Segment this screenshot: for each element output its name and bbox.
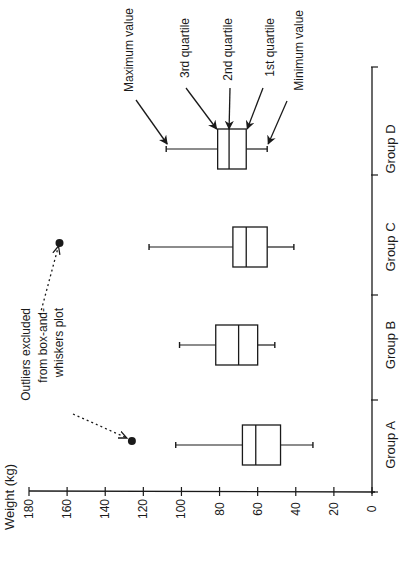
arrow-outlier-group-c [40, 246, 58, 315]
arrow-2nd-quartile [229, 88, 230, 129]
value-axis-line [29, 491, 375, 492]
value-axis-tick-label: 140 [98, 499, 112, 519]
value-axis-tick-label: 100 [174, 499, 188, 519]
box-series [55, 129, 312, 465]
value-axis-title: Weight (kg) [2, 464, 17, 530]
annotation-outliers-line: whiskers plot [52, 307, 66, 378]
interquartile-box [233, 227, 267, 267]
annotations: Maximum value3rd quartile2nd quartile1st… [19, 8, 306, 438]
category-label: Group B [383, 321, 398, 369]
annotation-maximum-value: Maximum value [122, 8, 136, 92]
axes: 020406080100120140160180Weight (kg)Group… [2, 67, 398, 530]
annotation-outliers-line: Outliers excluded [19, 308, 33, 401]
category-label: Group C [383, 222, 398, 271]
outlier-point [128, 437, 136, 445]
annotation-minimum-value: Minimum value [292, 10, 306, 91]
value-axis-tick-label: 80 [213, 502, 227, 516]
annotation-3rd-quartile: 3rd quartile [178, 18, 192, 78]
box-group-b [180, 325, 275, 365]
value-axis-tick-label: 20 [327, 502, 341, 516]
category-label: Group A [383, 421, 398, 469]
interquartile-box [216, 325, 258, 365]
arrow-1st-quartile [247, 88, 263, 129]
value-axis-tick-label: 40 [289, 502, 303, 516]
annotation-outliers-line: from box-and- [36, 308, 50, 383]
outlier-point [55, 239, 63, 247]
category-label: Group D [383, 124, 398, 173]
value-axis-tick-label: 160 [60, 499, 74, 519]
annotation-1st-quartile: 1st quartile [263, 18, 277, 77]
chart-canvas: 020406080100120140160180Weight (kg)Group… [0, 0, 404, 564]
arrow-minimum-value [268, 101, 287, 144]
value-axis-tick-label: 0 [365, 505, 379, 512]
arrow-outlier-group-a [73, 414, 127, 438]
value-axis-tick-label: 60 [251, 502, 265, 516]
arrow-maximum-value [136, 100, 167, 144]
arrow-3rd-quartile [186, 88, 217, 129]
box-group-d [166, 129, 267, 169]
box-group-c [55, 227, 293, 267]
interquartile-box [218, 129, 247, 169]
value-axis-tick-label: 180 [22, 499, 36, 519]
value-axis-tick-label: 120 [136, 499, 150, 519]
interquartile-box [242, 425, 280, 465]
annotation-2nd-quartile: 2nd quartile [221, 18, 235, 81]
box-plot-chart: 020406080100120140160180Weight (kg)Group… [0, 0, 404, 564]
box-group-a [128, 425, 313, 465]
